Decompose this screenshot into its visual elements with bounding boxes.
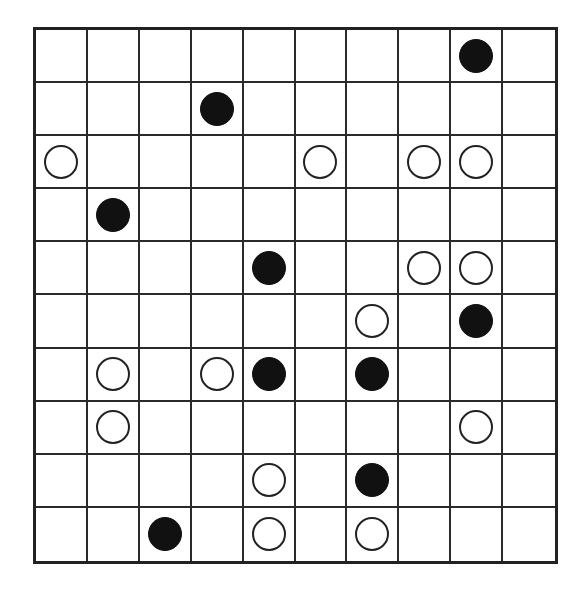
board-cell-r5-c3[interactable] bbox=[192, 295, 244, 348]
board-cell-r5-c2[interactable] bbox=[140, 295, 192, 348]
board-cell-r9-c3[interactable] bbox=[192, 508, 244, 561]
board-cell-r2-c3[interactable] bbox=[192, 136, 244, 189]
board-cell-r8-c2[interactable] bbox=[140, 455, 192, 508]
board-cell-r0-c4[interactable] bbox=[244, 30, 296, 83]
board-cell-r6-c5[interactable] bbox=[296, 349, 348, 402]
board-cell-r3-c4[interactable] bbox=[244, 189, 296, 242]
board-cell-r5-c7[interactable] bbox=[399, 295, 451, 348]
board-cell-r1-c0[interactable] bbox=[36, 83, 88, 136]
board-cell-r1-c6[interactable] bbox=[347, 83, 399, 136]
board-cell-r1-c7[interactable] bbox=[399, 83, 451, 136]
board-cell-r5-c9[interactable] bbox=[503, 295, 555, 348]
board-cell-r2-c0[interactable] bbox=[36, 136, 88, 189]
board-cell-r7-c9[interactable] bbox=[503, 402, 555, 455]
board-cell-r1-c2[interactable] bbox=[140, 83, 192, 136]
board-cell-r1-c8[interactable] bbox=[451, 83, 503, 136]
board-cell-r5-c1[interactable] bbox=[88, 295, 140, 348]
board-cell-r3-c5[interactable] bbox=[296, 189, 348, 242]
board-cell-r0-c1[interactable] bbox=[88, 30, 140, 83]
board-cell-r5-c4[interactable] bbox=[244, 295, 296, 348]
board-cell-r0-c9[interactable] bbox=[503, 30, 555, 83]
board-cell-r8-c6[interactable] bbox=[347, 455, 399, 508]
board-cell-r6-c2[interactable] bbox=[140, 349, 192, 402]
board-cell-r8-c0[interactable] bbox=[36, 455, 88, 508]
board-cell-r6-c6[interactable] bbox=[347, 349, 399, 402]
board-cell-r2-c7[interactable] bbox=[399, 136, 451, 189]
board-cell-r4-c9[interactable] bbox=[503, 242, 555, 295]
board-cell-r3-c1[interactable] bbox=[88, 189, 140, 242]
board-cell-r2-c4[interactable] bbox=[244, 136, 296, 189]
board-cell-r8-c9[interactable] bbox=[503, 455, 555, 508]
board-cell-r7-c7[interactable] bbox=[399, 402, 451, 455]
board-cell-r7-c2[interactable] bbox=[140, 402, 192, 455]
board-cell-r1-c3[interactable] bbox=[192, 83, 244, 136]
board-cell-r1-c5[interactable] bbox=[296, 83, 348, 136]
board-cell-r2-c2[interactable] bbox=[140, 136, 192, 189]
board-cell-r6-c9[interactable] bbox=[503, 349, 555, 402]
board-cell-r0-c5[interactable] bbox=[296, 30, 348, 83]
board-cell-r7-c3[interactable] bbox=[192, 402, 244, 455]
board-cell-r1-c9[interactable] bbox=[503, 83, 555, 136]
board-cell-r7-c4[interactable] bbox=[244, 402, 296, 455]
board-cell-r4-c6[interactable] bbox=[347, 242, 399, 295]
board-cell-r9-c4[interactable] bbox=[244, 508, 296, 561]
board-cell-r3-c8[interactable] bbox=[451, 189, 503, 242]
board-cell-r1-c1[interactable] bbox=[88, 83, 140, 136]
board-cell-r7-c1[interactable] bbox=[88, 402, 140, 455]
board-cell-r2-c6[interactable] bbox=[347, 136, 399, 189]
board-cell-r9-c1[interactable] bbox=[88, 508, 140, 561]
board-cell-r4-c5[interactable] bbox=[296, 242, 348, 295]
board-cell-r8-c7[interactable] bbox=[399, 455, 451, 508]
board-cell-r8-c3[interactable] bbox=[192, 455, 244, 508]
board-cell-r0-c2[interactable] bbox=[140, 30, 192, 83]
board-cell-r4-c0[interactable] bbox=[36, 242, 88, 295]
board-cell-r0-c0[interactable] bbox=[36, 30, 88, 83]
board-cell-r3-c7[interactable] bbox=[399, 189, 451, 242]
board-cell-r5-c0[interactable] bbox=[36, 295, 88, 348]
board-cell-r4-c2[interactable] bbox=[140, 242, 192, 295]
board-cell-r6-c0[interactable] bbox=[36, 349, 88, 402]
board-cell-r8-c8[interactable] bbox=[451, 455, 503, 508]
board-cell-r0-c8[interactable] bbox=[451, 30, 503, 83]
board-cell-r4-c3[interactable] bbox=[192, 242, 244, 295]
board-cell-r0-c6[interactable] bbox=[347, 30, 399, 83]
board-cell-r4-c4[interactable] bbox=[244, 242, 296, 295]
board-cell-r9-c0[interactable] bbox=[36, 508, 88, 561]
board-cell-r3-c6[interactable] bbox=[347, 189, 399, 242]
board-cell-r4-c8[interactable] bbox=[451, 242, 503, 295]
board-cell-r8-c5[interactable] bbox=[296, 455, 348, 508]
board-cell-r9-c5[interactable] bbox=[296, 508, 348, 561]
board-cell-r0-c7[interactable] bbox=[399, 30, 451, 83]
board-cell-r2-c9[interactable] bbox=[503, 136, 555, 189]
board-cell-r3-c3[interactable] bbox=[192, 189, 244, 242]
board-cell-r1-c4[interactable] bbox=[244, 83, 296, 136]
board-cell-r9-c9[interactable] bbox=[503, 508, 555, 561]
board-cell-r7-c8[interactable] bbox=[451, 402, 503, 455]
board-cell-r5-c6[interactable] bbox=[347, 295, 399, 348]
board-cell-r6-c4[interactable] bbox=[244, 349, 296, 402]
board-cell-r5-c8[interactable] bbox=[451, 295, 503, 348]
board-cell-r3-c0[interactable] bbox=[36, 189, 88, 242]
board-cell-r8-c1[interactable] bbox=[88, 455, 140, 508]
board-cell-r7-c0[interactable] bbox=[36, 402, 88, 455]
board-cell-r3-c9[interactable] bbox=[503, 189, 555, 242]
board-cell-r0-c3[interactable] bbox=[192, 30, 244, 83]
board-cell-r9-c7[interactable] bbox=[399, 508, 451, 561]
board-cell-r2-c8[interactable] bbox=[451, 136, 503, 189]
board-cell-r6-c3[interactable] bbox=[192, 349, 244, 402]
board-cell-r4-c7[interactable] bbox=[399, 242, 451, 295]
board-cell-r6-c7[interactable] bbox=[399, 349, 451, 402]
board-cell-r6-c8[interactable] bbox=[451, 349, 503, 402]
board-cell-r7-c6[interactable] bbox=[347, 402, 399, 455]
board-cell-r8-c4[interactable] bbox=[244, 455, 296, 508]
board-cell-r6-c1[interactable] bbox=[88, 349, 140, 402]
board-cell-r7-c5[interactable] bbox=[296, 402, 348, 455]
board-cell-r3-c2[interactable] bbox=[140, 189, 192, 242]
board-cell-r4-c1[interactable] bbox=[88, 242, 140, 295]
board-cell-r9-c6[interactable] bbox=[347, 508, 399, 561]
board-cell-r2-c5[interactable] bbox=[296, 136, 348, 189]
board-cell-r2-c1[interactable] bbox=[88, 136, 140, 189]
board-cell-r9-c2[interactable] bbox=[140, 508, 192, 561]
board-cell-r5-c5[interactable] bbox=[296, 295, 348, 348]
board-cell-r9-c8[interactable] bbox=[451, 508, 503, 561]
